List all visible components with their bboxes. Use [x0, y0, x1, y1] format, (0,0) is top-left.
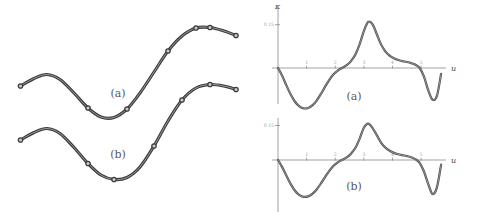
interpolation-point-marker: [112, 177, 116, 181]
left-curves-svg: (a) (b): [0, 0, 250, 216]
interpolation-point-marker: [86, 161, 90, 165]
interpolation-point-marker: [234, 33, 238, 37]
curvature-panel: 12345 0.15 u κ (a) 12345 0.15: [248, 0, 480, 216]
curve-b-highlight: [21, 84, 237, 179]
left-caption-b: (b): [110, 148, 126, 161]
x-tick-label: 1: [305, 60, 308, 65]
interpolation-point-marker: [208, 82, 212, 86]
plot-a-y-tick: 0.15: [264, 22, 280, 27]
curve-b-stroke: [21, 84, 237, 179]
curvature-plot-b: 12345 0.15 u (b): [264, 118, 456, 212]
interpolation-point-marker: [166, 49, 170, 53]
left-caption-a: (a): [110, 87, 125, 100]
x-tick-label: 3: [362, 152, 365, 157]
figure-root: (a) (b) 12345 0.15 u κ (a): [0, 0, 480, 216]
left-curves-panel: (a) (b): [0, 0, 250, 216]
plot-b-caption: (b): [346, 180, 362, 193]
curve-b-group: [18, 82, 238, 181]
x-tick-label: 5: [420, 60, 423, 65]
plot-a-xaxis-label: u: [451, 64, 456, 73]
x-tick-label: 5: [420, 152, 423, 157]
curvature-plot-a: 12345 0.15 u κ (a): [264, 2, 456, 108]
interpolation-point-marker: [194, 26, 198, 30]
interpolation-point-marker: [86, 106, 90, 110]
curvature-svg: 12345 0.15 u κ (a) 12345 0.15: [248, 0, 480, 216]
plot-a-yaxis-label: κ: [274, 2, 281, 11]
x-tick-label: 2: [334, 60, 337, 65]
plot-b-ytick-label: 0.15: [264, 123, 274, 128]
curve-a-stroke: [21, 27, 237, 118]
plot-b-y-tick: 0.15: [264, 123, 280, 128]
curve-a-group: [18, 25, 238, 118]
curve-b-markers: [18, 82, 238, 181]
interpolation-point-marker: [208, 25, 212, 29]
x-tick-label: 1: [305, 152, 308, 157]
curve-a-highlight: [21, 27, 237, 118]
interpolation-point-marker: [125, 107, 129, 111]
plot-b-xaxis-label: u: [451, 156, 456, 165]
interpolation-point-marker: [152, 144, 156, 148]
interpolation-point-marker: [234, 87, 238, 91]
x-tick-label: 3: [362, 60, 365, 65]
x-tick-label: 4: [391, 60, 394, 65]
curve-a-markers: [18, 25, 238, 111]
x-tick-label: 2: [334, 152, 337, 157]
interpolation-point-marker: [18, 84, 22, 88]
interpolation-point-marker: [180, 98, 184, 102]
interpolation-point-marker: [18, 138, 22, 142]
plot-a-ytick-label: 0.15: [264, 22, 274, 27]
plot-a-caption: (a): [346, 90, 361, 103]
